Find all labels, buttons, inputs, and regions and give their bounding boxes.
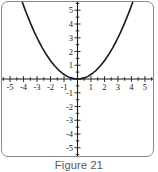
x-tick-label: 1 xyxy=(89,82,93,92)
x-tick-label: -5 xyxy=(7,82,14,92)
x-tick-label: 4 xyxy=(129,82,134,92)
figure-container: -5-4-3-2-11234554321-1-2-3-4-5 Figure 21 xyxy=(0,0,158,172)
x-tick-label: 5 xyxy=(143,82,147,92)
y-tick-label: 3 xyxy=(69,33,73,43)
y-tick-label: 5 xyxy=(69,5,73,15)
y-tick-label: -3 xyxy=(66,115,73,125)
x-tick-label: -3 xyxy=(34,82,41,92)
x-tick-label: -2 xyxy=(47,82,54,92)
x-tick-label: 3 xyxy=(116,82,120,92)
y-tick-label: 2 xyxy=(69,47,73,57)
x-tick-label: -4 xyxy=(20,82,28,92)
y-tick-label: -5 xyxy=(66,143,73,153)
y-tick-label: -1 xyxy=(66,88,73,98)
figure-caption: Figure 21 xyxy=(0,159,158,172)
y-tick-label: 4 xyxy=(69,19,74,29)
y-tick-label: -2 xyxy=(66,102,73,112)
cartesian-plot: -5-4-3-2-11234554321-1-2-3-4-5 xyxy=(2,2,153,156)
y-tick-label: -4 xyxy=(66,129,74,139)
plot-frame: -5-4-3-2-11234554321-1-2-3-4-5 xyxy=(1,1,154,157)
y-tick-label: 1 xyxy=(69,60,73,70)
x-tick-label: 2 xyxy=(102,82,106,92)
